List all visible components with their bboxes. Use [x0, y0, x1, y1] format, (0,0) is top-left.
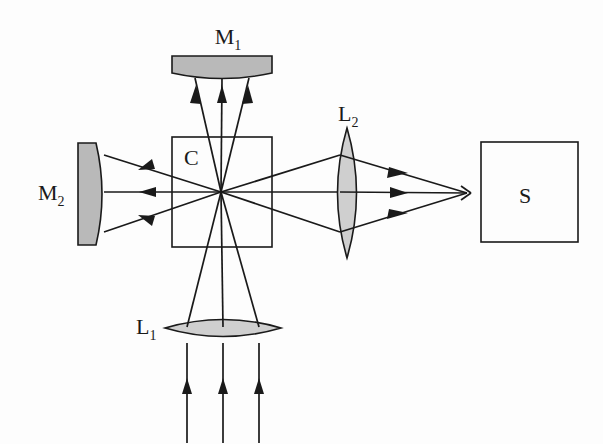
- label-screen-s: S: [519, 183, 531, 208]
- label-l1-base: L: [136, 314, 149, 339]
- ray-center-to-m2-upper: [104, 155, 221, 192]
- mirror-m1: [172, 56, 272, 79]
- ray-bundle-center-to-m1: [190, 78, 253, 192]
- label-l1-sub: 1: [149, 328, 156, 343]
- ray-center-to-l2-lower: [221, 192, 340, 232]
- label-l2-sub: 2: [351, 115, 358, 130]
- arrowhead-m2-center: [139, 187, 156, 197]
- label-m1-sub: 1: [234, 38, 241, 53]
- label-lens-l2: L2: [338, 101, 358, 130]
- optical-diagram: M1 M2 L1 L2 C S: [0, 0, 603, 444]
- ray-bundle-center-to-l2: [221, 155, 340, 232]
- arrowhead-s-upper: [387, 167, 408, 178]
- label-m1-base: M: [215, 24, 235, 49]
- mirror-m2-body: [78, 143, 102, 245]
- ray-bundle-center-to-m2: [104, 155, 221, 232]
- ray-center-to-m1-left: [195, 78, 221, 192]
- label-lens-l1: L1: [136, 314, 156, 343]
- arrowhead-m2-upper: [138, 159, 155, 170]
- arrowhead-m1-center: [217, 85, 227, 103]
- lens-l2: [338, 128, 357, 258]
- label-l2-base: L: [338, 101, 351, 126]
- label-m2-base: M: [38, 180, 58, 205]
- arrowhead-m1-right: [242, 85, 253, 104]
- arrowhead-input-right: [254, 378, 264, 394]
- ray-center-to-l2-upper: [221, 155, 340, 192]
- mirror-m1-body: [172, 56, 272, 79]
- ray-center-to-m1-right: [221, 78, 249, 192]
- label-mirror-m1: M1: [215, 24, 242, 53]
- arrowhead-m2-lower: [138, 215, 155, 226]
- label-m2-sub: 2: [58, 194, 65, 209]
- figure-canvas: M1 M2 L1 L2 C S: [0, 0, 603, 444]
- arrowhead-s-center: [390, 187, 408, 198]
- mirror-m2: [78, 143, 102, 245]
- ray-bundle-l2-to-s: [340, 155, 471, 232]
- label-cube-c: C: [184, 145, 199, 170]
- arrowhead-input-left: [182, 378, 192, 394]
- ray-l1-center-to-center: [221, 192, 223, 327]
- arrowhead-input-center: [218, 378, 228, 394]
- arrowhead-s-lower: [387, 209, 408, 219]
- ray-center-to-m2-lower: [104, 192, 221, 232]
- ray-bundle-l1-to-center: [187, 192, 259, 327]
- ray-l1-left-to-center: [187, 192, 221, 327]
- input-ray-bundle: [182, 343, 264, 443]
- lens-l2-body: [338, 128, 357, 258]
- label-mirror-m2: M2: [38, 180, 65, 209]
- ray-l1-right-to-center: [221, 192, 259, 327]
